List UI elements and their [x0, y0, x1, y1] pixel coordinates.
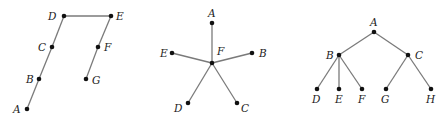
node-label: D — [47, 10, 57, 22]
node-f — [96, 45, 101, 50]
node-d — [186, 101, 191, 106]
node-label: E — [159, 47, 168, 59]
node-b — [37, 77, 42, 82]
edge-c-g — [386, 55, 408, 89]
star-graph: ABCDEF — [159, 7, 267, 114]
node-label: A — [207, 7, 216, 19]
node-label: C — [415, 49, 423, 61]
graph-diagrams: ABCDEFG ABCDEF ABCDEFGH — [0, 0, 444, 120]
edge-f-d — [188, 63, 212, 103]
node-b — [250, 51, 255, 56]
node-label: C — [38, 41, 46, 53]
node-h — [429, 87, 434, 92]
node-e — [109, 14, 114, 19]
edge-f-c — [212, 63, 237, 103]
node-label: E — [115, 10, 124, 22]
node-label: B — [258, 47, 267, 59]
node-f — [360, 87, 365, 92]
node-label: E — [334, 93, 343, 105]
node-d — [315, 87, 320, 92]
node-e — [170, 51, 175, 56]
node-label: D — [173, 102, 183, 114]
node-a — [210, 21, 215, 26]
node-label: F — [357, 93, 366, 105]
node-label: D — [311, 93, 321, 105]
edge-a-b — [339, 32, 374, 55]
edge-b-f — [339, 55, 362, 89]
node-label: B — [25, 73, 34, 85]
node-label: H — [425, 93, 436, 105]
node-a — [372, 30, 377, 35]
node-label: F — [103, 41, 112, 53]
node-b — [337, 53, 342, 58]
node-c — [235, 101, 240, 106]
node-a — [25, 107, 30, 112]
node-label: C — [241, 102, 249, 114]
node-c — [50, 45, 55, 50]
node-label: F — [216, 45, 225, 57]
node-d — [62, 14, 67, 19]
node-label: G — [92, 74, 100, 86]
node-f — [210, 61, 215, 66]
node-c — [406, 53, 411, 58]
edge-a-c — [374, 32, 408, 55]
edge-f-e — [172, 53, 212, 63]
binary-tree: ABCDEFGH — [311, 16, 436, 105]
node-label: A — [12, 103, 21, 115]
node-label: G — [381, 93, 389, 105]
node-label: A — [369, 16, 378, 28]
node-g — [384, 87, 389, 92]
node-g — [84, 77, 89, 82]
path-graph: ABCDEFG — [12, 10, 124, 115]
node-label: B — [325, 49, 334, 61]
node-e — [337, 87, 342, 92]
